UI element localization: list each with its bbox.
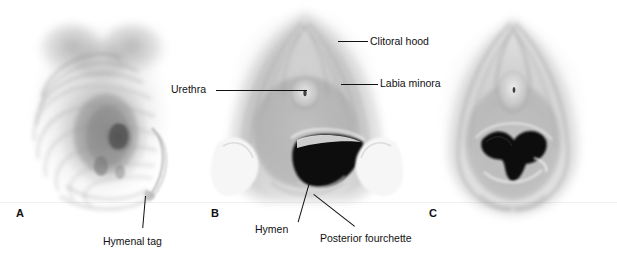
panel-a-illustration — [0, 0, 205, 256]
panel-a: A — [0, 0, 205, 256]
panel-letter-b: B — [211, 208, 219, 219]
callout-label-urethra: Urethra — [171, 84, 206, 95]
panel-b-urethra — [290, 78, 320, 110]
panel-seam-divider — [0, 202, 617, 203]
panel-letter-a: A — [16, 208, 24, 219]
panel-letter-c: C — [429, 208, 437, 219]
anatomical-figure: A — [0, 0, 617, 256]
panel-c-illustration — [410, 0, 617, 256]
leader-line-clitoral-hood — [338, 41, 368, 42]
leader-line-urethra — [216, 90, 307, 91]
panel-c-urethra — [497, 70, 529, 114]
callout-label-clitoral-hood: Clitoral hood — [370, 36, 429, 47]
callout-label-labia-minora: Labia minora — [380, 78, 441, 89]
panel-c: C — [410, 0, 617, 256]
leader-line-labia-minora — [341, 84, 378, 85]
callout-label-hymen: Hymen — [255, 224, 288, 235]
callout-label-hymenal-tag: Hymenal tag — [103, 236, 162, 247]
callout-label-posterior-fourchette: Posterior fourchette — [320, 233, 412, 244]
